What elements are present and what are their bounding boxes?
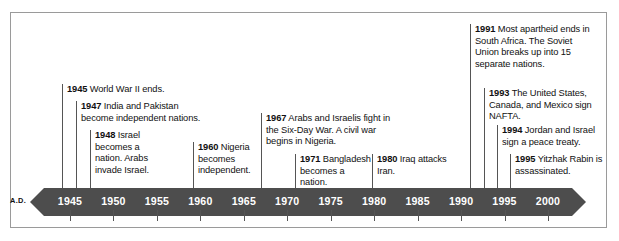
axis-tick (287, 210, 288, 221)
timeline-figure: 1945 World War II ends. 1947 India and P… (0, 0, 619, 241)
axis-tick (70, 210, 71, 221)
event-label-1991: 1991 Most apartheid ends in South Africa… (475, 24, 591, 70)
event-year: 1980 (377, 154, 397, 164)
axis-tick (461, 210, 462, 221)
event-year: 1945 (67, 84, 87, 94)
event-text: World War II ends. (90, 84, 165, 94)
axis-tick (505, 210, 506, 221)
timeline-axis: 1945195019551960196519701975198019851990… (30, 188, 586, 216)
axis-year-label: 1945 (58, 195, 82, 207)
event-year: 1994 (502, 125, 522, 135)
event-label-1960: 1960 Nigeria becomes independent. (198, 142, 260, 177)
event-label-1947: 1947 India and Pakistan become independe… (81, 101, 209, 124)
event-label-1980: 1980 Iraq attacks Iran. (377, 154, 449, 177)
leader-line-1980 (372, 154, 373, 188)
axis-tick (374, 210, 375, 221)
leader-line-1945 (62, 84, 63, 188)
leader-line-1971 (295, 154, 296, 188)
event-year: 1947 (81, 101, 101, 111)
axis-tick (113, 210, 114, 221)
axis-year-label: 1970 (275, 195, 299, 207)
era-label: A.D. (10, 196, 26, 205)
axis-year-label: 1960 (188, 195, 212, 207)
axis-year-label: 1965 (232, 195, 256, 207)
leader-line-1994 (497, 125, 498, 188)
event-label-1948: 1948 Israel becomes a nation. Arabs inva… (95, 130, 157, 176)
axis-tick (157, 210, 158, 221)
axis-tick (331, 210, 332, 221)
leader-line-1995 (510, 154, 511, 188)
leader-line-1967 (261, 113, 262, 188)
event-year: 1991 (475, 24, 495, 34)
leader-line-1991 (470, 24, 471, 188)
event-year: 1993 (489, 88, 509, 98)
event-year: 1971 (300, 154, 320, 164)
event-label-1967: 1967 Arabs and Israelis fight in the Six… (266, 113, 391, 148)
event-label-1993: 1993 The United States, Canada, and Mexi… (489, 88, 597, 123)
leader-line-1993 (484, 88, 485, 188)
axis-tick (244, 210, 245, 221)
leader-line-1947 (76, 101, 77, 188)
event-year: 1995 (515, 154, 535, 164)
event-year: 1948 (95, 130, 115, 140)
axis-tick (200, 210, 201, 221)
event-label-1945: 1945 World War II ends. (67, 84, 202, 96)
axis-year-label: 2000 (536, 195, 560, 207)
axis-year-label: 1975 (319, 195, 343, 207)
event-year: 1960 (198, 142, 218, 152)
axis-tick (418, 210, 419, 221)
axis-year-label: 1950 (101, 195, 125, 207)
axis-year-label: 1980 (362, 195, 386, 207)
leader-line-1960 (193, 142, 194, 188)
leader-line-1948 (90, 130, 91, 188)
axis-year-label: 1995 (492, 195, 516, 207)
event-label-1994: 1994 Jordan and Israel sign a peace trea… (502, 125, 602, 148)
axis-year-label: 1955 (145, 195, 169, 207)
axis-year-label: 1990 (449, 195, 473, 207)
event-label-1971: 1971 Bangladesh becomes a nation. (300, 154, 372, 189)
axis-tick (548, 210, 549, 221)
axis-year-label: 1985 (405, 195, 429, 207)
event-year: 1967 (266, 113, 286, 123)
event-label-1995: 1995 Yitzhak Rabin is assassinated. (515, 154, 609, 177)
